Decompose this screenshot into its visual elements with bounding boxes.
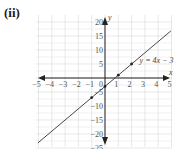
x-tick-label: 5 bbox=[168, 80, 172, 89]
x-tick-label: −2 bbox=[72, 80, 81, 89]
x-tick-label: −3 bbox=[59, 80, 68, 89]
y-tick-label: −15 bbox=[90, 116, 103, 125]
y-tick-label: −25 bbox=[90, 144, 103, 149]
data-point bbox=[130, 63, 133, 66]
data-point bbox=[104, 85, 107, 88]
x-tick-label: 4 bbox=[154, 80, 158, 89]
x-tick-label: −4 bbox=[46, 80, 55, 89]
equation-label: y = 4x − 3 bbox=[139, 56, 174, 65]
y-tick-label: −20 bbox=[90, 130, 103, 139]
x-axis-label: x bbox=[168, 68, 173, 77]
x-tick-label: 1 bbox=[114, 80, 118, 89]
x-tick-label: −5 bbox=[32, 80, 41, 89]
y-tick-label: 5 bbox=[99, 60, 103, 69]
x-tick-label: 2 bbox=[128, 80, 132, 89]
x-tick-label: 3 bbox=[141, 80, 145, 89]
data-point bbox=[117, 74, 120, 77]
x-tick-label: −1 bbox=[85, 80, 94, 89]
y-tick-label: 10 bbox=[95, 46, 103, 55]
line-chart: −5−4−3−2−10123452015105−5−10−15−20−25xyy… bbox=[0, 0, 177, 149]
y-tick-label: 15 bbox=[95, 32, 103, 41]
y-axis-label: y bbox=[107, 13, 112, 22]
y-tick-label: 20 bbox=[95, 18, 103, 27]
data-point bbox=[90, 96, 93, 99]
y-tick-label: −10 bbox=[90, 102, 103, 111]
